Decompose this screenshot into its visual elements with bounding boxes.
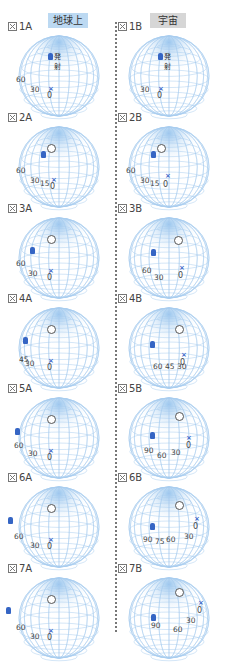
- angle-label: 30: [154, 273, 164, 282]
- figure-panel-5b: 5B×0906030: [118, 383, 228, 473]
- projectile-marker-icon: [30, 247, 35, 254]
- angle-label: 60: [14, 441, 24, 450]
- angle-label: 30: [186, 616, 196, 625]
- target-circle-icon: [175, 588, 184, 597]
- figure-panel-6a: 6A×06030: [8, 472, 118, 562]
- angle-label: 60: [16, 166, 26, 175]
- angle-label: 45: [165, 362, 175, 371]
- projectile-marker-icon: [158, 53, 163, 60]
- target-circle-icon: [175, 501, 184, 510]
- angle-label: 60: [153, 362, 163, 371]
- projectile-marker-icon: [15, 428, 20, 435]
- angle-label: 30: [28, 449, 38, 458]
- projectile-marker-icon: [41, 151, 46, 158]
- angle-label: 30: [30, 176, 40, 185]
- angle-label: 60: [14, 532, 24, 541]
- figure-panel-7a: 7A×06030: [8, 563, 118, 653]
- globe-grid-icon: [110, 478, 220, 573]
- figure-panel-1a: 1A発射×06030: [8, 21, 118, 111]
- angle-label: 30: [30, 85, 40, 94]
- projectile-marker-icon: [150, 341, 155, 348]
- angle-label: 30: [140, 85, 150, 94]
- angle-label: 60: [16, 75, 26, 84]
- angle-label: 60: [16, 623, 26, 632]
- angle-label: 90: [151, 621, 161, 630]
- projectile-marker-icon: [151, 614, 156, 621]
- angle-label: 60: [166, 535, 176, 544]
- launch-label: 発射: [164, 51, 171, 71]
- projectile-marker-icon: [151, 249, 156, 256]
- globe-grid-icon: [110, 569, 220, 664]
- projectile-marker-icon: [6, 607, 11, 614]
- globe-grid-icon: [0, 478, 110, 573]
- globe-grid-icon: [110, 209, 220, 304]
- target-circle-icon: [47, 144, 56, 153]
- globe-grid-icon: [110, 389, 220, 484]
- projectile-marker-icon: [151, 151, 156, 158]
- figure-panel-3b: 3B×06030: [118, 203, 228, 293]
- globe-grid-icon: [0, 299, 110, 394]
- angle-label: 30: [184, 532, 194, 541]
- angle-label: 60: [126, 166, 136, 175]
- angle-label: 15: [150, 179, 160, 188]
- projectile-marker-icon: [150, 523, 155, 530]
- globe-grid-icon: [0, 569, 110, 664]
- zero-label: 0: [47, 542, 52, 551]
- angle-label: 30: [177, 362, 187, 371]
- projectile-marker-icon: [48, 53, 53, 60]
- angle-label: 30: [25, 359, 35, 368]
- figure-panel-6b: 6B×090756030: [118, 472, 228, 562]
- zero-label: 0: [47, 363, 52, 372]
- figure-panel-5a: 5A×06030: [8, 383, 118, 473]
- angle-label: 75: [155, 537, 165, 546]
- target-circle-icon: [47, 415, 56, 424]
- angle-label: 30: [140, 176, 150, 185]
- origin-x-marker-icon: ×: [165, 172, 171, 180]
- figure-panel-4a: 4A×04530: [8, 293, 118, 383]
- zero-label: 0: [178, 271, 183, 280]
- figure-panel-1b: 1B発射×030: [118, 21, 228, 111]
- angle-label: 60: [173, 625, 183, 634]
- angle-label: 90: [144, 446, 154, 455]
- globe-grid-icon: [110, 27, 220, 122]
- angle-label: 15: [40, 179, 50, 188]
- zero-label: 0: [50, 182, 55, 191]
- globe-grid-icon: [0, 209, 110, 304]
- angle-label: 30: [30, 632, 40, 641]
- figure-panel-2a: 2A×0603015: [8, 112, 118, 202]
- target-circle-icon: [175, 325, 184, 334]
- zero-label: 0: [47, 91, 52, 100]
- zero-label: 0: [157, 91, 162, 100]
- angle-label: 90: [143, 535, 153, 544]
- target-circle-icon: [47, 595, 56, 604]
- launch-label: 発射: [54, 51, 61, 71]
- target-circle-icon: [157, 144, 166, 153]
- zero-label: 0: [193, 522, 198, 531]
- angle-label: 30: [28, 269, 38, 278]
- figure-panel-3a: 3A×06030: [8, 203, 118, 293]
- target-circle-icon: [47, 235, 56, 244]
- zero-label: 0: [47, 453, 52, 462]
- target-circle-icon: [47, 325, 56, 334]
- globe-grid-icon: [0, 389, 110, 484]
- target-circle-icon: [175, 412, 184, 421]
- angle-label: 60: [16, 259, 26, 268]
- zero-label: 0: [47, 633, 52, 642]
- zero-label: 0: [47, 273, 52, 282]
- projectile-marker-icon: [23, 337, 28, 344]
- figure-panel-4b: 4B×0604530: [118, 293, 228, 383]
- target-circle-icon: [47, 504, 56, 513]
- angle-label: 30: [171, 448, 181, 457]
- zero-label: 0: [186, 441, 191, 450]
- angle-label: 60: [142, 266, 152, 275]
- globe-grid-icon: [110, 299, 220, 394]
- figure-panel-7b: 7B×0906030: [118, 563, 228, 653]
- angle-label: 60: [157, 451, 167, 460]
- zero-label: 0: [163, 180, 168, 189]
- projectile-marker-icon: [150, 432, 155, 439]
- angle-label: 30: [30, 541, 40, 550]
- projectile-marker-icon: [8, 517, 13, 524]
- zero-label: 0: [197, 606, 202, 615]
- figure-panel-2b: 2B×0603015: [118, 112, 228, 202]
- target-circle-icon: [174, 236, 183, 245]
